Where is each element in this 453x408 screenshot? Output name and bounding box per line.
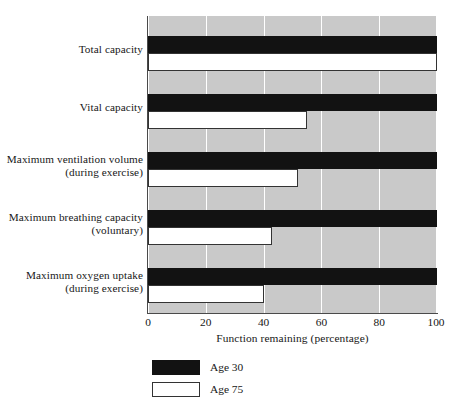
x-axis-title: Function remaining (percentage) xyxy=(148,332,437,344)
bar-total-capacity-age75 xyxy=(148,53,437,71)
category-label-line1: Maximum breathing capacity xyxy=(9,211,143,223)
category-label-line2: (voluntary) xyxy=(0,224,143,237)
x-tick-60: 60 xyxy=(316,316,327,328)
category-label-line2: (during exercise) xyxy=(0,166,143,179)
x-axis-tick-labels: 0 20 40 60 80 100 xyxy=(148,316,437,332)
legend-label-age75: Age 75 xyxy=(210,382,243,397)
category-label-line1: Maximum ventilation volume xyxy=(7,153,143,165)
x-axis-line xyxy=(147,313,438,314)
x-tick-40: 40 xyxy=(258,316,269,328)
category-label-total-capacity: Total capacity xyxy=(0,43,143,56)
legend-item-age30: Age 30 xyxy=(152,359,332,378)
category-label-maximum-ventilation-volume: Maximum ventilation volume (during exerc… xyxy=(0,153,143,178)
category-label-line1: Total capacity xyxy=(79,43,143,55)
bar-maximum-ventilation-volume-age30 xyxy=(148,152,437,169)
chart-legend: Age 30 Age 75 xyxy=(152,359,332,403)
bar-maximum-ventilation-volume-age75 xyxy=(148,169,298,187)
category-axis-labels: Total capacity Vital capacity Maximum ve… xyxy=(0,16,143,313)
bar-vital-capacity-age75 xyxy=(148,111,307,129)
bar-maximum-breathing-capacity-age75 xyxy=(148,227,272,245)
bar-total-capacity-age30 xyxy=(148,36,437,53)
legend-label-age30: Age 30 xyxy=(210,360,243,375)
y-axis-line xyxy=(147,16,148,314)
x-tick-20: 20 xyxy=(200,316,211,328)
bar-vital-capacity-age30 xyxy=(148,94,437,111)
x-tick-80: 80 xyxy=(373,316,384,328)
x-tick-100: 100 xyxy=(427,316,444,328)
legend-item-age75: Age 75 xyxy=(152,381,332,400)
plot-area xyxy=(148,16,437,313)
category-label-vital-capacity: Vital capacity xyxy=(0,101,143,114)
bar-maximum-oxygen-uptake-age30 xyxy=(148,268,437,285)
bar-maximum-oxygen-uptake-age75 xyxy=(148,285,264,303)
bar-maximum-breathing-capacity-age30 xyxy=(148,210,437,227)
category-label-maximum-breathing-capacity: Maximum breathing capacity (voluntary) xyxy=(0,211,143,236)
category-label-line2: (during exercise) xyxy=(0,282,143,295)
legend-swatch-age75 xyxy=(152,382,200,397)
category-label-line1: Maximum oxygen uptake xyxy=(26,269,143,281)
category-label-maximum-oxygen-uptake: Maximum oxygen uptake (during exercise) xyxy=(0,269,143,294)
category-label-line1: Vital capacity xyxy=(80,101,143,113)
legend-swatch-age30 xyxy=(152,360,200,375)
x-tick-0: 0 xyxy=(145,316,151,328)
bar-chart: Total capacity Vital capacity Maximum ve… xyxy=(0,0,453,408)
